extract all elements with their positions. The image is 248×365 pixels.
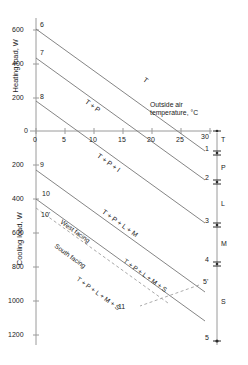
curve-number-10: 10 bbox=[42, 190, 50, 197]
y-tick-heating-200: 200 bbox=[12, 94, 24, 101]
right-scale-segment-t: T bbox=[221, 136, 225, 143]
curve-line-10-prime bbox=[36, 208, 168, 303]
curve-number-7: 7 bbox=[40, 49, 44, 56]
curve-line-6 bbox=[36, 29, 205, 151]
x-tick-5: 5 bbox=[62, 136, 66, 143]
y-tick-heating-600: 600 bbox=[12, 26, 24, 33]
y-tick-cooling-200: 200 bbox=[12, 161, 24, 168]
x-axis-label: Outside airtemperature, °C bbox=[150, 101, 198, 118]
chart-canvas: Heating load, W Cooling load, W Outside … bbox=[0, 0, 248, 365]
curve-number-9: 9 bbox=[40, 161, 44, 168]
y-tick-cooling-1200: 1200 bbox=[8, 331, 24, 338]
y-tick-heating-0: 0 bbox=[24, 127, 28, 134]
y-tick-cooling-1000: 1000 bbox=[8, 297, 24, 304]
y-axis-label-cooling: Cooling load, W bbox=[16, 191, 24, 287]
y-tick-cooling-800: 800 bbox=[12, 263, 24, 270]
right-scale-segment-l: L bbox=[221, 200, 225, 207]
curve-line-9 bbox=[36, 170, 205, 292]
right-scale-segment-p: P bbox=[221, 164, 226, 171]
y-tick-heating-400: 400 bbox=[12, 60, 24, 67]
right-scale-node-5-prime: 5' bbox=[203, 278, 208, 285]
y-tick-cooling-600: 600 bbox=[12, 229, 24, 236]
x-tick-30: 30 bbox=[201, 133, 209, 140]
right-scale-node-2: 2 bbox=[205, 174, 209, 181]
x-tick-15: 15 bbox=[118, 136, 126, 143]
x-tick-0: 0 bbox=[33, 136, 37, 143]
x-tick-20: 20 bbox=[147, 136, 155, 143]
right-scale-node-1: 1 bbox=[205, 145, 209, 152]
right-scale-node-3: 3 bbox=[205, 217, 209, 224]
right-scale-node-5: 5 bbox=[205, 334, 209, 341]
right-scale-segment-m: M bbox=[221, 240, 227, 247]
y-tick-cooling-400: 400 bbox=[12, 195, 24, 202]
curve-number-6: 6 bbox=[40, 21, 44, 28]
curve-number-8: 8 bbox=[40, 93, 44, 100]
right-scale-segment-s: S bbox=[221, 298, 226, 305]
curve-number-10-prime: 10' bbox=[41, 211, 50, 218]
right-scale-node-4: 4 bbox=[205, 256, 209, 263]
x-tick-10: 10 bbox=[89, 136, 97, 143]
chart-svg bbox=[0, 0, 248, 365]
x-tick-25: 25 bbox=[176, 136, 184, 143]
